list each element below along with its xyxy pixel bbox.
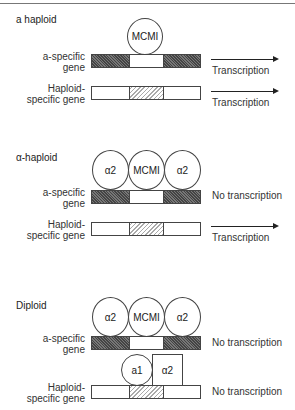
haploid-specific-gene-label: Haploid- specific gene [0, 382, 85, 404]
haploid-specific-gene-box [91, 222, 201, 236]
transcription-status: Transcription [212, 65, 269, 76]
gene-promoter [129, 191, 164, 203]
gene-promoter [129, 337, 164, 349]
gene-flank-left [92, 337, 129, 349]
gene-flank-right [164, 87, 200, 99]
panel-title-diploid: Diploid [16, 300, 47, 311]
gene-flank-right [164, 191, 200, 203]
gene-promoter [129, 223, 164, 235]
mcmi-protein: MCMI [127, 18, 163, 55]
alpha2-protein: α2 [92, 150, 129, 190]
a-specific-gene-label: a-specific gene [0, 333, 85, 355]
gene-promoter [129, 386, 164, 398]
alpha2-protein-square: α2 [152, 354, 183, 386]
a-specific-gene-box [91, 54, 201, 68]
a-specific-gene-label: a-specific gene [0, 51, 85, 73]
haploid-specific-gene-label: Haploid- specific gene [0, 219, 85, 241]
gene-flank-left [92, 223, 129, 235]
gene-flank-left [92, 55, 129, 67]
alpha2-protein: α2 [164, 297, 201, 337]
gene-flank-right [164, 55, 200, 67]
gene-flank-right [164, 337, 200, 349]
panel-title-a-haploid: a haploid [16, 14, 57, 25]
transcription-status: No transcription [212, 337, 282, 348]
transcription-arrow [211, 91, 277, 92]
transcription-status: No transcription [212, 386, 282, 397]
haploid-specific-gene-label: Haploid- specific gene [0, 83, 85, 105]
transcription-status: Transcription [212, 232, 269, 243]
a-specific-gene-label: a-specific gene [0, 187, 85, 209]
alpha2-protein: α2 [92, 297, 129, 337]
a-specific-gene-box [91, 190, 201, 204]
transcription-status: No transcription [212, 190, 282, 201]
a-specific-gene-box [91, 336, 201, 350]
transcription-status: Transcription [212, 97, 269, 108]
gene-flank-left [92, 386, 129, 398]
a1-protein: a1 [121, 354, 153, 386]
gene-promoter [129, 55, 164, 67]
gene-flank-right [164, 386, 200, 398]
haploid-specific-gene-box [91, 385, 201, 399]
transcription-arrow [211, 226, 277, 227]
panel-title-alpha-haploid: α-haploid [16, 152, 57, 163]
top-rule [0, 3, 295, 4]
gene-flank-left [92, 191, 129, 203]
mcmi-protein: MCMI [128, 297, 165, 337]
gene-flank-right [164, 223, 200, 235]
gene-flank-left [92, 87, 129, 99]
haploid-specific-gene-box [91, 86, 201, 100]
mcmi-protein: MCMI [128, 150, 165, 190]
gene-promoter [129, 87, 164, 99]
transcription-arrow [211, 59, 277, 60]
alpha2-protein: α2 [164, 150, 201, 190]
